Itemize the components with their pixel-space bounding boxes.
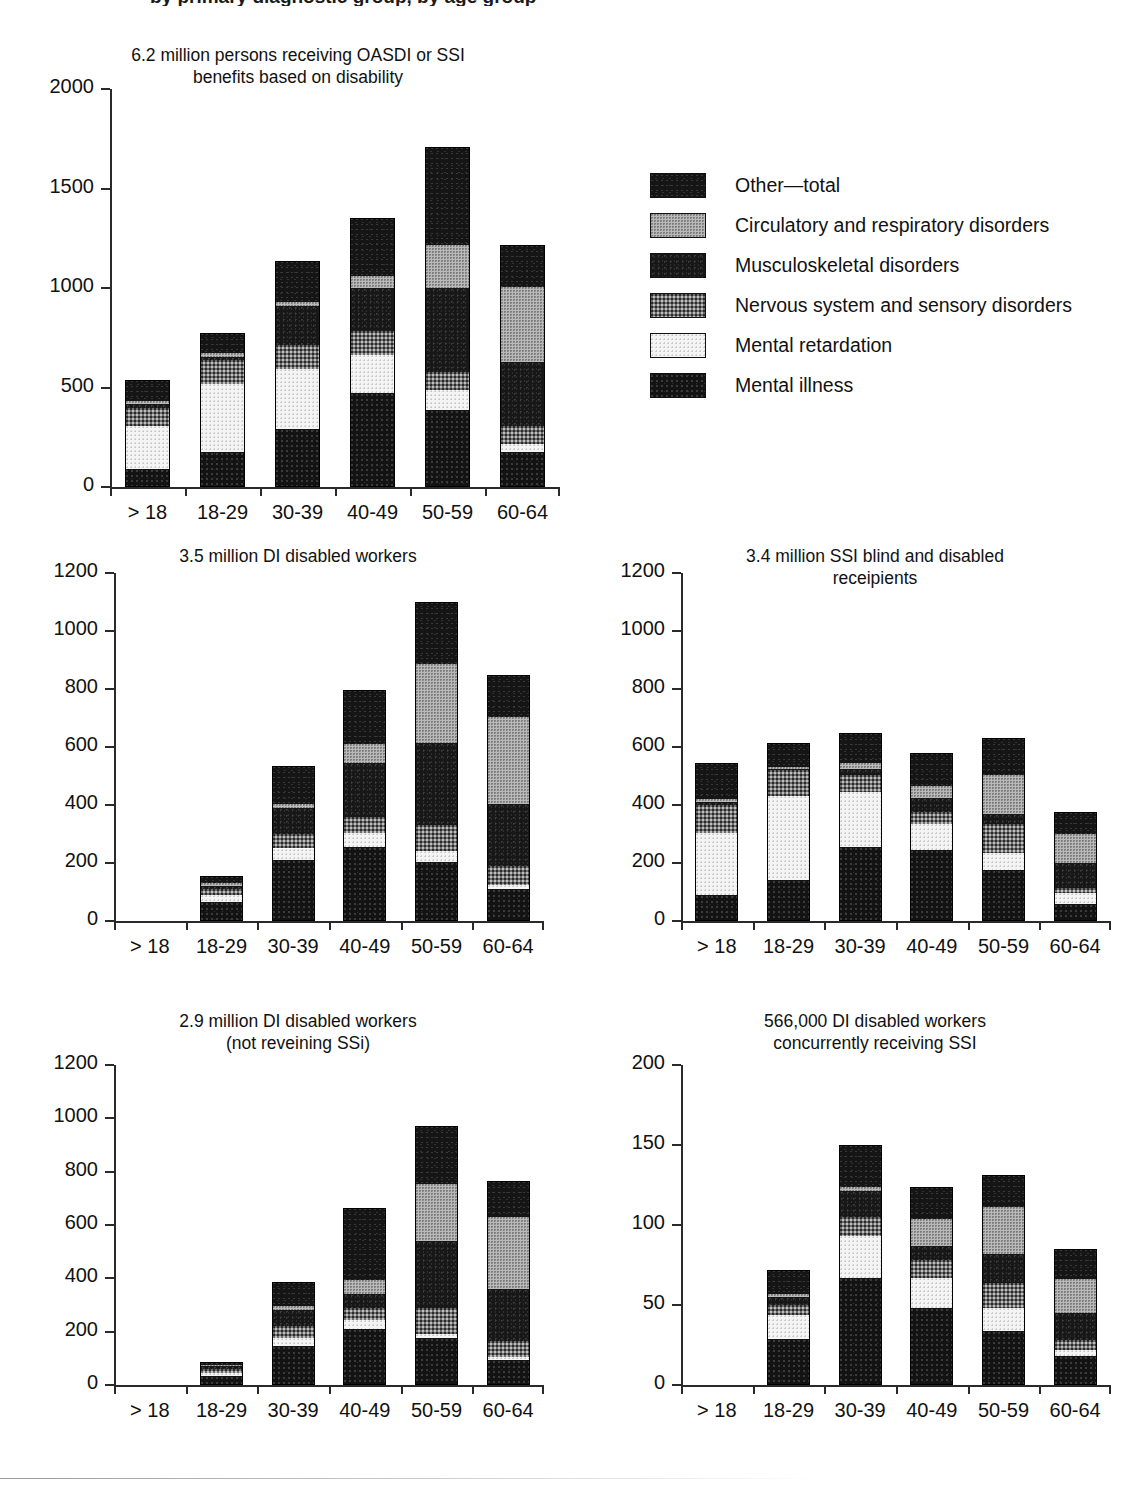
bar-segment[interactable] <box>695 763 738 799</box>
bar-segment[interactable] <box>982 1331 1025 1385</box>
bar-segment[interactable] <box>1054 1249 1097 1279</box>
bar-segment[interactable] <box>272 1326 315 1338</box>
legend-item[interactable]: Musculoskeletal disorders <box>650 245 1110 285</box>
stacked-bar[interactable] <box>982 738 1025 921</box>
bar-segment[interactable] <box>767 770 810 796</box>
bar-segment[interactable] <box>1054 812 1097 834</box>
bar-segment[interactable] <box>272 860 315 921</box>
bar-segment[interactable] <box>200 360 245 384</box>
bar-segment[interactable] <box>272 1282 315 1306</box>
bar-segment[interactable] <box>272 1310 315 1326</box>
bar-segment[interactable] <box>415 1338 458 1385</box>
stacked-bar[interactable] <box>200 876 243 921</box>
bar-segment[interactable] <box>200 1366 243 1369</box>
bar-segment[interactable] <box>200 1373 243 1376</box>
stacked-bar[interactable] <box>125 380 170 487</box>
bar-segment[interactable] <box>910 850 953 921</box>
bar-segment[interactable] <box>695 895 738 921</box>
bar-segment[interactable] <box>500 287 545 362</box>
bar-segment[interactable] <box>910 1278 953 1308</box>
bar-segment[interactable] <box>500 245 545 287</box>
bar-segment[interactable] <box>425 288 470 372</box>
bar-segment[interactable] <box>415 1126 458 1183</box>
bar-segment[interactable] <box>200 876 243 883</box>
bar-segment[interactable] <box>982 738 1025 774</box>
bar-segment[interactable] <box>767 743 810 768</box>
stacked-bar[interactable] <box>910 1187 953 1385</box>
bar-segment[interactable] <box>982 814 1025 824</box>
bar-segment[interactable] <box>350 331 395 355</box>
bar-segment[interactable] <box>343 1208 386 1280</box>
stacked-bar[interactable] <box>343 690 386 921</box>
bar-segment[interactable] <box>272 808 315 834</box>
bar-segment[interactable] <box>1054 1313 1097 1340</box>
bar-segment[interactable] <box>839 1145 882 1187</box>
bar-segment[interactable] <box>200 452 245 487</box>
stacked-bar[interactable] <box>500 245 545 487</box>
stacked-bar[interactable] <box>275 261 320 487</box>
bar-segment[interactable] <box>275 429 320 487</box>
bar-segment[interactable] <box>487 1181 530 1217</box>
bar-segment[interactable] <box>343 1308 386 1320</box>
bar-segment[interactable] <box>839 847 882 921</box>
bar-segment[interactable] <box>415 862 458 921</box>
bar-segment[interactable] <box>839 763 882 769</box>
stacked-bar[interactable] <box>200 1362 243 1385</box>
bar-segment[interactable] <box>343 847 386 921</box>
bar-segment[interactable] <box>487 1357 530 1360</box>
bar-segment[interactable] <box>487 717 530 804</box>
bar-segment[interactable] <box>839 1278 882 1385</box>
bar-segment[interactable] <box>343 1320 386 1329</box>
legend-item[interactable]: Mental retardation <box>650 325 1110 365</box>
bar-segment[interactable] <box>275 369 320 430</box>
bar-segment[interactable] <box>982 1207 1025 1253</box>
bar-segment[interactable] <box>350 288 395 331</box>
bar-segment[interactable] <box>350 276 395 288</box>
bar-segment[interactable] <box>1054 1350 1097 1356</box>
bar-segment[interactable] <box>982 1254 1025 1283</box>
bar-segment[interactable] <box>910 786 953 798</box>
bar-segment[interactable] <box>200 895 243 902</box>
bar-segment[interactable] <box>200 883 243 886</box>
bar-segment[interactable] <box>767 1305 810 1315</box>
stacked-bar[interactable] <box>982 1175 1025 1385</box>
bar-segment[interactable] <box>272 766 315 804</box>
bar-segment[interactable] <box>343 1294 386 1307</box>
bar-segment[interactable] <box>982 775 1025 814</box>
bar-segment[interactable] <box>415 1334 458 1338</box>
bar-segment[interactable] <box>839 769 882 775</box>
bar-segment[interactable] <box>125 426 170 469</box>
stacked-bar[interactable] <box>343 1208 386 1385</box>
bar-segment[interactable] <box>839 1217 882 1236</box>
bar-segment[interactable] <box>982 1175 1025 1207</box>
bar-segment[interactable] <box>1054 893 1097 903</box>
bar-segment[interactable] <box>415 664 458 742</box>
stacked-bar[interactable] <box>910 753 953 921</box>
bar-segment[interactable] <box>200 1369 243 1373</box>
bar-segment[interactable] <box>350 393 395 487</box>
bar-segment[interactable] <box>200 333 245 353</box>
stacked-bar[interactable] <box>415 602 458 921</box>
bar-segment[interactable] <box>200 1365 243 1366</box>
bar-segment[interactable] <box>487 675 530 717</box>
bar-segment[interactable] <box>487 889 530 921</box>
bar-segment[interactable] <box>767 1297 810 1305</box>
bar-segment[interactable] <box>910 753 953 786</box>
bar-segment[interactable] <box>767 880 810 921</box>
bar-segment[interactable] <box>200 886 243 889</box>
bar-segment[interactable] <box>1054 888 1097 894</box>
bar-segment[interactable] <box>767 769 810 770</box>
stacked-bar[interactable] <box>487 675 530 922</box>
bar-segment[interactable] <box>272 1338 315 1346</box>
bar-segment[interactable] <box>200 384 245 453</box>
bar-segment[interactable] <box>415 1308 458 1335</box>
legend-item[interactable]: Other—total <box>650 165 1110 205</box>
bar-segment[interactable] <box>1054 834 1097 863</box>
bar-segment[interactable] <box>487 1360 530 1385</box>
bar-segment[interactable] <box>1054 863 1097 888</box>
bar-segment[interactable] <box>487 804 530 866</box>
bar-segment[interactable] <box>1054 904 1097 921</box>
bar-segment[interactable] <box>982 1308 1025 1330</box>
stacked-bar[interactable] <box>350 218 395 487</box>
bar-segment[interactable] <box>500 444 545 452</box>
